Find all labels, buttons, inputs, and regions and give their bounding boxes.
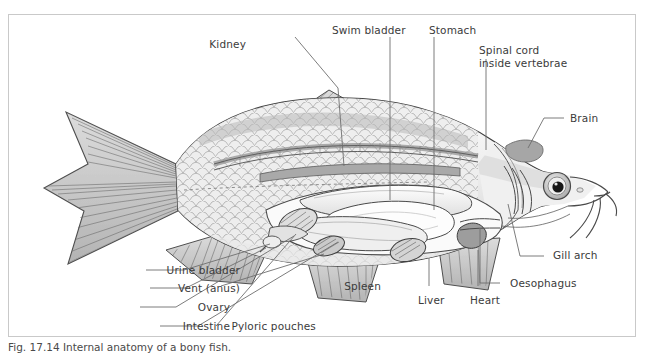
label-spleen: Spleen	[321, 280, 381, 293]
caudal-fin	[44, 112, 178, 264]
label-liver: Liver	[418, 294, 445, 307]
label-oesophagus: Oesophagus	[510, 277, 577, 290]
heart-organ	[457, 223, 486, 248]
nostril	[577, 188, 583, 192]
label-swim-bladder: Swim bladder	[332, 24, 406, 37]
figure-caption: Fig. 17.14 Internal anatomy of a bony fi…	[8, 341, 648, 354]
eye	[544, 173, 571, 200]
label-ovary: Ovary	[160, 301, 230, 314]
label-brain: Brain	[570, 112, 598, 125]
label-kidney: Kidney	[146, 38, 246, 51]
label-gill-arch: Gill arch	[553, 249, 598, 262]
label-intestine: Intestine	[160, 320, 230, 333]
label-stomach: Stomach	[429, 24, 476, 37]
brain-organ	[506, 140, 543, 162]
label-vent-anus: Vent (anus)	[140, 282, 240, 295]
figure-root: Kidney Swim bladder Stomach Spinal cord …	[0, 0, 651, 356]
barbels	[570, 194, 617, 238]
label-heart: Heart	[470, 294, 500, 307]
label-spinal-cord: Spinal cord inside vertebrae	[479, 44, 567, 70]
label-pyloric-pouches: Pyloric pouches	[216, 320, 316, 333]
label-urine-bladder: Urine bladder	[136, 264, 240, 277]
